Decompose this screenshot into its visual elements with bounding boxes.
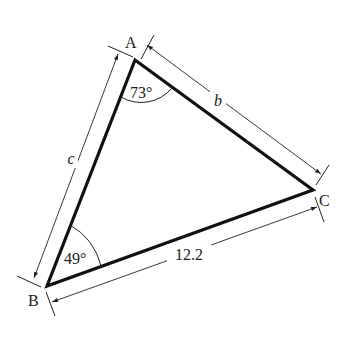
diagram-canvas: A B C 73° 49° b c 12.2 <box>0 0 351 339</box>
dimension-line-b <box>147 45 321 174</box>
vertex-label-a: A <box>125 34 137 51</box>
vertex-label-b: B <box>28 292 39 309</box>
side-label-a: 12.2 <box>175 246 203 263</box>
vertex-label-c: C <box>319 192 330 209</box>
triangle-diagram: A B C 73° 49° b c 12.2 <box>0 0 351 339</box>
tick-c-b <box>17 276 41 287</box>
tick-a-b <box>46 292 55 316</box>
angle-label-a: 73° <box>130 84 152 101</box>
angle-label-b: 49° <box>64 250 86 267</box>
tick-b-a <box>141 35 154 59</box>
side-label-b: b <box>214 92 222 109</box>
tick-b-c <box>316 165 329 185</box>
side-label-c: c <box>67 150 74 167</box>
